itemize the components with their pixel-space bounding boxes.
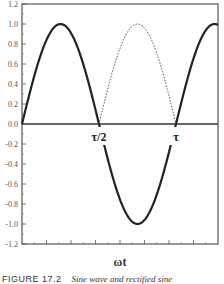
x-axis-label: ωt (114, 255, 127, 269)
sine-negative-lobe (99, 124, 176, 224)
y-tick-label: 0.6 (8, 60, 18, 69)
y-tick-label: -0.8 (5, 200, 18, 209)
y-tick-label: 1.2 (8, 0, 18, 9)
y-tick-label: 0.8 (8, 40, 18, 49)
x-axis-ticks (34, 240, 206, 244)
y-tick-label: 0.2 (8, 100, 18, 109)
figure-caption-text: Sine wave and rectified sine (72, 274, 173, 284)
y-tick-label: 0.4 (8, 80, 18, 89)
y-tick-label: -1.0 (5, 220, 18, 229)
sine-positive-lobe (22, 24, 99, 124)
plot-frame (22, 4, 218, 244)
x-annotation-label: τ (173, 130, 179, 144)
rectified-lobe-dashed (99, 24, 176, 124)
y-tick-label: -0.2 (5, 140, 18, 149)
x-annotations: τ/2τ (89, 127, 186, 145)
x-annotation-label: τ/2 (92, 130, 107, 144)
sine-second-positive-lobe (176, 24, 218, 124)
y-tick-label: -1.2 (5, 240, 18, 249)
figure-caption: FIGURE 17.2Sine wave and rectified sine (2, 274, 172, 284)
y-tick-label: -0.4 (5, 160, 18, 169)
y-tick-label: 0.0 (8, 120, 18, 129)
figure-number: FIGURE 17.2 (2, 274, 62, 284)
y-tick-label: -0.6 (5, 180, 18, 189)
sine-rectified-chart: 1.21.00.80.60.40.20.0-0.2-0.4-0.6-0.8-1.… (0, 0, 224, 284)
y-tick-label: 1.0 (8, 20, 18, 29)
